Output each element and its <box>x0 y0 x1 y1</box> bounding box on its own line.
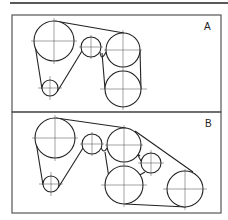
pulley <box>105 125 143 165</box>
panel-b-pulleys <box>32 115 207 210</box>
pulley <box>80 132 104 156</box>
panel-a-pulleys <box>31 18 147 110</box>
belt-diagram: A B <box>0 0 228 220</box>
pulley <box>79 35 103 59</box>
pulley <box>163 169 207 210</box>
pulley <box>100 70 147 110</box>
pulley <box>38 76 62 100</box>
pulley <box>104 30 142 70</box>
panel-a-label: A <box>204 21 211 32</box>
panel-b-label: B <box>205 118 212 129</box>
pulley <box>31 18 77 64</box>
pulley <box>138 150 164 176</box>
pulley <box>32 115 78 161</box>
pulley <box>39 172 63 196</box>
